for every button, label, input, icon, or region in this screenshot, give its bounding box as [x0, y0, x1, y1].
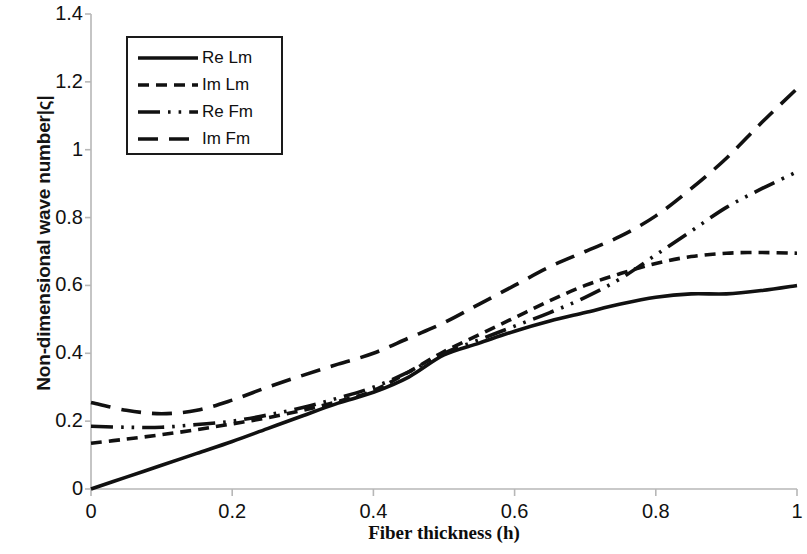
series-line-re-fm	[91, 172, 797, 428]
y-axis-tick-label: 0.4	[25, 342, 83, 362]
legend-swatch-solid	[136, 51, 200, 65]
x-axis-title: Fiber thickness (h)	[91, 522, 797, 544]
legend-item-im-lm: Im Lm	[136, 71, 279, 99]
x-axis-tick-label: 0.2	[202, 501, 262, 521]
y-axis-tick-label: 1.4	[25, 3, 83, 23]
y-axis-tick-label: 1	[25, 139, 83, 159]
y-axis-tick-label: 0.2	[25, 410, 83, 430]
legend: Re LmIm LmRe FmIm Fm	[126, 36, 283, 155]
legend-label: Re Lm	[200, 48, 252, 68]
y-axis-tick-label: 1.2	[25, 71, 83, 91]
legend-item-re-lm: Re Lm	[136, 44, 279, 72]
legend-label: Re Fm	[200, 102, 253, 122]
legend-label: Im Lm	[200, 75, 249, 95]
legend-item-im-fm: Im Fm	[136, 125, 279, 153]
x-axis-tick-label: 1	[767, 501, 807, 521]
series-line-re-lm	[91, 285, 797, 489]
y-axis-tick-label: 0	[25, 478, 83, 498]
y-axis-tick-label: 0.6	[25, 274, 83, 294]
legend-swatch-dashed	[136, 132, 200, 146]
x-axis-tick-label: 0.4	[343, 501, 403, 521]
y-axis-tick-label: 0.8	[25, 207, 83, 227]
x-axis-tick-label: 0.8	[626, 501, 686, 521]
x-axis-tick-label: 0	[61, 501, 121, 521]
legend-swatch-dashdotdot	[136, 105, 200, 119]
x-axis-tick-label: 0.6	[485, 501, 545, 521]
legend-label: Im Fm	[200, 129, 250, 149]
legend-swatch-dotted	[136, 78, 200, 92]
legend-item-re-fm: Re Fm	[136, 98, 279, 126]
series-line-im-lm	[91, 253, 797, 444]
